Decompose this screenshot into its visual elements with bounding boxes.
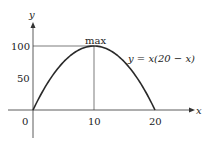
tick-0: 0 [22,116,28,127]
tick-100: 100 [11,41,30,52]
y-axis-arrow-icon [31,22,36,28]
equation-label: y = x(20 − x) [127,53,195,64]
parabola-chart: y x 100 50 0 10 20 max y = x(20 − x) [0,0,205,142]
y-axis-label: y [28,9,35,20]
tick-10: 10 [88,116,101,127]
x-axis-arrow-icon [189,108,195,113]
max-label: max [85,35,106,46]
tick-50: 50 [17,73,30,84]
tick-20: 20 [149,116,162,127]
x-axis-label: x [196,105,202,116]
